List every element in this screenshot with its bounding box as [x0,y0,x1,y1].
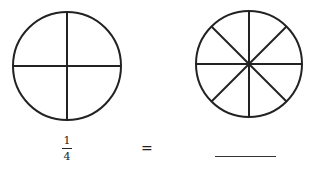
answer-blank[interactable] [215,156,276,157]
circle-fourths [13,12,121,120]
fraction-bar [62,148,72,149]
numerator: 1 [59,135,75,146]
circle-eighths [196,11,302,117]
denominator: 4 [59,151,75,162]
equals-sign: = [141,141,153,155]
fraction-one-quarter: 1 4 [59,135,75,162]
fraction-circles [0,0,312,169]
